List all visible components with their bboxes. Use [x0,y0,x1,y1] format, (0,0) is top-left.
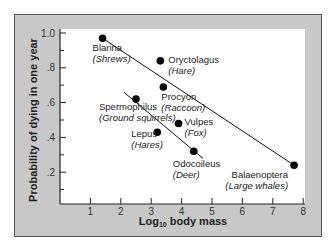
point-label-genus: Vulpes [185,116,214,127]
y-ticks: .2.4.6.81.0 [41,28,66,190]
scatter-chart: .2.4.6.81.0 12345678 Blarina(Shrews)Oryc… [0,0,332,252]
y-tick-label: 1.0 [41,28,55,39]
x-tick-label: 7 [270,206,276,217]
data-points: Blarina(Shrews)Oryctolagus(Hare)Procyon(… [93,34,298,191]
x-axis-title: Log10 body mass [139,215,228,228]
y-tick-label: .6 [47,97,56,108]
y-tick-label: .2 [47,167,56,178]
x-tick-label: 6 [240,206,246,217]
x-tick-label: 2 [118,206,124,217]
point-label-genus: Odocoileus [173,158,221,169]
point-label-genus: Balaenoptera [232,169,289,180]
point-label-genus: Oryctolagus [168,54,219,65]
point-label-genus: Procyon [161,91,196,102]
data-point-vulpes [175,120,183,128]
y-tick-label: .4 [47,132,56,143]
point-label-genus: Spermophilus [99,101,157,112]
point-label-common: (Deer) [173,169,200,180]
y-tick-label: .8 [47,62,56,73]
point-label-genus: Blarina [93,42,123,53]
point-label-genus: Lepus [131,128,157,139]
data-point-oryctolagus [157,57,165,65]
point-label-common: (Ground squirrels) [99,112,176,123]
point-label-common: (Hares) [131,139,163,150]
point-label-common: (Large whales) [225,180,288,191]
data-point-odocoileus [190,148,198,156]
point-label-common: (Hare) [168,65,195,76]
data-point-blarina [99,34,107,42]
y-axis-title: Probability of dying in one year [27,37,39,202]
data-point-procyon [160,83,168,91]
point-label-common: (Fox) [185,127,207,138]
data-point-balaenoptera [290,161,298,169]
point-label-common: (Shrews) [93,53,131,64]
x-tick-label: 1 [88,206,94,217]
x-tick-label: 8 [300,206,306,217]
